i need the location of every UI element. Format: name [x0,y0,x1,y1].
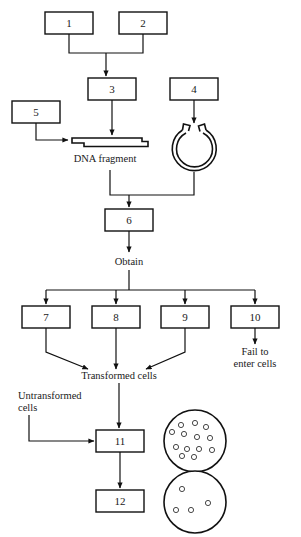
box-1-label: 1 [66,17,72,29]
connector-untransformed-cells-to-box11 [29,415,94,441]
label-fail-to-enter-cells-line2: enter cells [234,358,277,369]
label-fail-to-enter-cells-line1: Fail to [241,346,268,357]
connector-fragment-plasmid-to-box6 [110,170,194,207]
connector-box1-box2-to-box3 [69,34,143,76]
box-9-label: 9 [182,311,188,323]
dna-fragment-icon [72,138,148,147]
box-6-label: 6 [126,214,132,226]
diagram-canvas: 1 2 3 4 5 6 7 8 [0,0,301,537]
box-12[interactable]: 12 [96,490,144,512]
box-4-label: 4 [191,83,197,95]
box-9[interactable]: 9 [161,306,209,328]
petri-dish-bottom-icon [164,471,226,533]
box-3-label: 3 [109,83,115,95]
connector-boxes-7-9-to-transformed-cells [46,328,185,369]
box-2-label: 2 [140,17,146,29]
label-untransformed-cells-line2: cells [18,402,37,413]
box-5-label: 5 [33,106,39,118]
box-11[interactable]: 11 [96,430,144,452]
box-2[interactable]: 2 [119,12,167,34]
connector-box5-to-dna-fragment [36,123,68,140]
flowchart-diagram: 1 2 3 4 5 6 7 8 [0,0,301,537]
box-5[interactable]: 5 [12,101,60,123]
plasmid-icon [172,124,216,171]
connector-obtain-to-boxes-7-10 [46,270,255,304]
box-10-label: 10 [250,311,262,323]
label-transformed-cells: Transformed cells [81,370,157,381]
box-6[interactable]: 6 [105,209,153,231]
label-dna-fragment: DNA fragment [74,153,137,164]
label-obtain: Obtain [115,256,144,267]
box-7-label: 7 [43,311,49,323]
petri-dish-top-icon [164,410,226,472]
box-4[interactable]: 4 [170,78,218,100]
box-10[interactable]: 10 [231,306,279,328]
box-1[interactable]: 1 [45,12,93,34]
box-3[interactable]: 3 [88,78,136,100]
box-12-label: 12 [115,495,126,507]
box-8-label: 8 [113,311,119,323]
label-untransformed-cells-line1: Untransformed [18,390,82,401]
box-7[interactable]: 7 [22,306,70,328]
box-11-label: 11 [115,435,126,447]
box-8[interactable]: 8 [92,306,140,328]
